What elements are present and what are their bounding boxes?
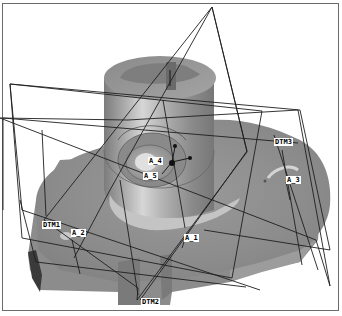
plane-label-dtm1[interactable]: DTM1 [42, 221, 61, 229]
plane-label-dtm3[interactable]: DTM3 [274, 138, 293, 146]
axis-label-a5[interactable]: A_5 [143, 172, 158, 180]
model-graphics [0, 0, 342, 316]
plane-label-dtm2[interactable]: DTM2 [141, 298, 160, 306]
axis-label-a1[interactable]: A_1 [184, 234, 199, 242]
axis-label-a3[interactable]: A_3 [286, 176, 301, 184]
axis-label-a4[interactable]: A_4 [148, 157, 163, 165]
axis-label-a2[interactable]: A_2 [71, 229, 86, 237]
cad-model-viewport[interactable]: A_4 A_5 DTM1 A_2 A_1 DTM3 A_3 DTM2 [0, 0, 342, 316]
